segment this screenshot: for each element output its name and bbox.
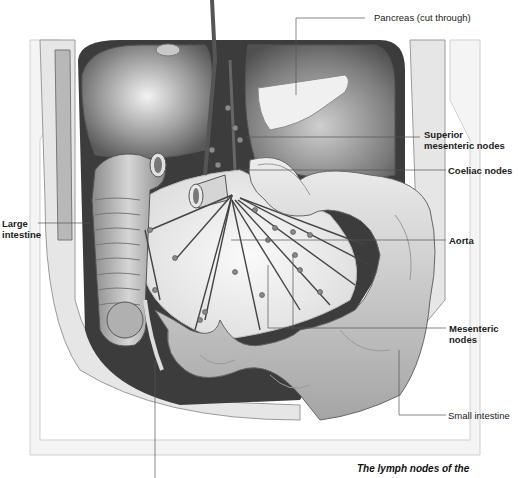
label-superior-mesenteric-line1: Superior [424,129,463,140]
label-superior-mesenteric-line2: mesenteric nodes [424,140,505,151]
label-large-intestine-line1: Large [2,218,28,229]
liver [82,45,213,159]
figure-caption: The lymph nodes of the [357,463,469,474]
label-coeliac-nodes: Coeliac nodes [448,165,512,176]
label-pancreas: Pancreas (cut through) [374,12,471,23]
label-mesenteric-line2: nodes [449,334,477,345]
label-large-intestine-line2: intestine [2,229,41,240]
anatomy-figure: Pancreas (cut through) Superior mesenter… [0,0,518,478]
label-aorta: Aorta [449,235,474,246]
label-mesenteric-line1: Mesenteric [449,323,499,334]
abdomen-illustration [0,0,518,478]
label-small-intestine: Small intestine [448,410,510,421]
